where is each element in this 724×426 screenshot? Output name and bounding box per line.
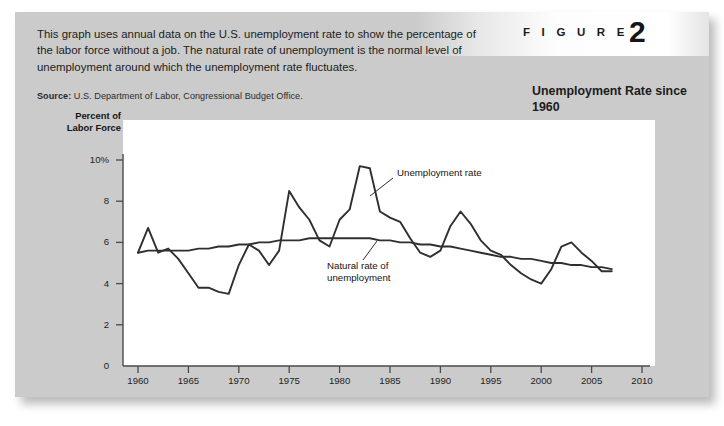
- x-tick-label-1965: 1965: [168, 375, 208, 386]
- x-tick-label-2005: 2005: [572, 375, 612, 386]
- figure-subtitle: Unemployment Rate since 1960: [532, 84, 707, 115]
- figure-label: F I G U R E: [523, 26, 629, 38]
- y-tick-label-6: 6: [75, 236, 109, 247]
- x-tick-label-1960: 1960: [118, 375, 158, 386]
- figure-source: Source: U.S. Department of Labor, Congre…: [37, 91, 507, 101]
- figure-number: 2: [629, 15, 646, 49]
- plot-area: [123, 120, 655, 366]
- y-tick-label-10: 10%: [75, 154, 109, 165]
- y-tick-label-0: 0: [75, 360, 109, 371]
- x-tick-label-2010: 2010: [622, 375, 662, 386]
- annotation-unemployment-rate: Unemployment rate: [397, 167, 482, 179]
- source-text: U.S. Department of Labor, Congressional …: [74, 91, 303, 101]
- x-tick-label-1980: 1980: [320, 375, 360, 386]
- x-tick-label-2000: 2000: [521, 375, 561, 386]
- x-tick-label-1995: 1995: [471, 375, 511, 386]
- source-label: Source:: [37, 91, 71, 101]
- y-tick-label-8: 8: [75, 195, 109, 206]
- figure-caption: This graph uses annual data on the U.S. …: [37, 26, 492, 75]
- y-tick-label-4: 4: [75, 278, 109, 289]
- y-tick-label-2: 2: [75, 319, 109, 330]
- chart-svg: [123, 120, 655, 366]
- x-tick-label-1970: 1970: [219, 375, 259, 386]
- x-tick-label-1975: 1975: [269, 375, 309, 386]
- x-tick-label-1985: 1985: [370, 375, 410, 386]
- x-tick-label-1990: 1990: [420, 375, 460, 386]
- annotation-natural-rate-of-unemployment: Natural rate of unemployment: [327, 260, 391, 283]
- y-axis-title: Percent of Labor Force: [61, 110, 121, 133]
- figure-card: F I G U R E 2 This graph uses annual dat…: [15, 12, 709, 397]
